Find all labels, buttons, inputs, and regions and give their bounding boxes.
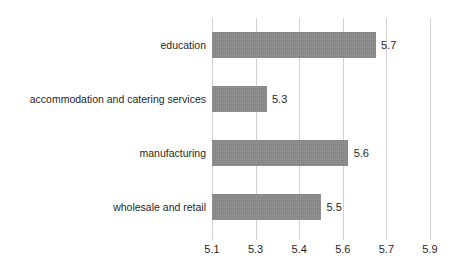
x-tick-mark	[343, 234, 344, 240]
bar-value-label: 5.5	[327, 201, 342, 214]
x-tick-label: 5.4	[292, 243, 307, 256]
bar-value-label: 5.6	[354, 147, 369, 160]
x-tick-mark	[299, 234, 300, 240]
bar-value-label: 5.3	[272, 93, 287, 106]
bar	[212, 140, 348, 166]
bar-value-label: 5.7	[381, 39, 396, 52]
bar-chart: education 5.7 accommodation and catering…	[0, 0, 456, 266]
bar-rows: education 5.7 accommodation and catering…	[0, 0, 456, 234]
x-axis: 5.1 5.3 5.4 5.6 5.7 5.9	[0, 234, 456, 266]
bar-track: 5.3	[212, 86, 430, 112]
bar-row: education 5.7	[0, 18, 456, 72]
x-tick-mark	[386, 234, 387, 240]
x-tick-mark	[256, 234, 257, 240]
bar	[212, 32, 376, 58]
bar	[212, 194, 321, 220]
x-tick-mark	[430, 234, 431, 240]
category-label: accommodation and catering services	[0, 93, 206, 106]
bar-track: 5.7	[212, 32, 430, 58]
x-tick-label: 5.1	[204, 243, 219, 256]
x-tick-label: 5.9	[422, 243, 437, 256]
bar-track: 5.5	[212, 194, 430, 220]
bar	[212, 86, 267, 112]
bar-track: 5.6	[212, 140, 430, 166]
bar-row: accommodation and catering services 5.3	[0, 72, 456, 126]
bar-row: manufacturing 5.6	[0, 126, 456, 180]
x-tick-label: 5.7	[379, 243, 394, 256]
bar-row: wholesale and retail 5.5	[0, 180, 456, 234]
x-tick-label: 5.6	[335, 243, 350, 256]
category-label: education	[0, 39, 206, 52]
category-label: manufacturing	[0, 147, 206, 160]
category-label: wholesale and retail	[0, 201, 206, 214]
x-tick-label: 5.3	[248, 243, 263, 256]
x-tick-mark	[212, 234, 213, 240]
